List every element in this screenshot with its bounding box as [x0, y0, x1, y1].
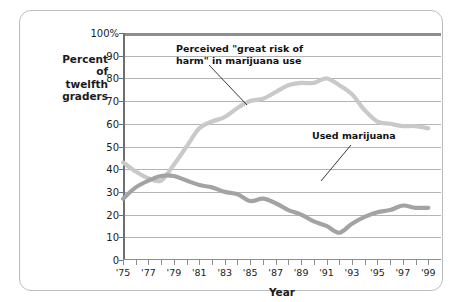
- x-tick-mark-1990: [314, 260, 315, 265]
- y-axis-title: Percent of twelfth graders: [34, 53, 108, 103]
- plot-area: 100%9080706050403020100 '75'77'79'81'83'…: [123, 33, 441, 260]
- y-axis-title-line-3: twelfth: [34, 78, 108, 90]
- y-tick-label-10: 10: [106, 232, 119, 243]
- x-tick-mark-1999: [428, 260, 429, 265]
- y-tick-label-40: 40: [106, 164, 119, 175]
- x-tick-label-1983: '83: [217, 267, 232, 278]
- x-tick-mark-1995: [377, 260, 378, 265]
- annotation-leaders: [123, 33, 441, 260]
- x-tick-label-1991: '91: [319, 267, 334, 278]
- x-tick-mark-1998: [416, 260, 417, 265]
- y-axis-title-line-4: graders: [34, 90, 108, 102]
- x-tick-mark-1991: [327, 260, 328, 265]
- x-tick-mark-1977: [148, 260, 149, 265]
- x-tick-label-1993: '93: [345, 267, 360, 278]
- x-tick-mark-1988: [288, 260, 289, 265]
- x-tick-mark-1978: [161, 260, 162, 265]
- x-tick-mark-1975: [123, 260, 124, 265]
- x-tick-mark-1986: [263, 260, 264, 265]
- x-tick-mark-1985: [250, 260, 251, 265]
- x-tick-label-1979: '79: [167, 267, 182, 278]
- x-tick-mark-1992: [339, 260, 340, 265]
- x-tick-label-1981: '81: [192, 267, 207, 278]
- x-tick-mark-1996: [390, 260, 391, 265]
- x-tick-label-1975: '75: [116, 267, 131, 278]
- x-tick-label-1985: '85: [243, 267, 258, 278]
- x-tick-mark-1993: [352, 260, 353, 265]
- y-tick-label-50: 50: [106, 141, 119, 152]
- chart-figure: Percent of twelfth graders 100%908070605…: [19, 10, 443, 291]
- x-tick-mark-1979: [174, 260, 175, 265]
- y-tick-label-20: 20: [106, 209, 119, 220]
- y-axis-title-line-1: Percent: [34, 53, 108, 65]
- leader-line-risk: [209, 65, 247, 105]
- x-tick-mark-1987: [276, 260, 277, 265]
- x-tick-label-1977: '77: [141, 267, 156, 278]
- leader-line-use: [321, 145, 351, 181]
- y-tick-label-100: 100%: [90, 28, 119, 39]
- x-axis-title: Year: [123, 286, 441, 298]
- x-tick-mark-1989: [301, 260, 302, 265]
- x-tick-mark-1982: [212, 260, 213, 265]
- x-tick-label-1987: '87: [268, 267, 283, 278]
- y-tick-label-70: 70: [106, 96, 119, 107]
- x-tick-mark-1997: [403, 260, 404, 265]
- x-tick-mark-1980: [187, 260, 188, 265]
- x-tick-label-1999: '99: [421, 267, 436, 278]
- y-axis-title-line-2: of: [34, 65, 108, 77]
- x-tick-mark-1981: [199, 260, 200, 265]
- x-tick-mark-1984: [237, 260, 238, 265]
- x-tick-mark-1994: [365, 260, 366, 265]
- x-tick-label-1997: '97: [395, 267, 410, 278]
- y-tick-label-90: 90: [106, 50, 119, 61]
- annotation-used-marijuana: Used marijuana: [312, 130, 396, 142]
- annotation-perceived-risk: Perceived "great risk of harm" in mariju…: [176, 43, 303, 66]
- x-tick-mark-1983: [225, 260, 226, 265]
- x-tick-label-1995: '95: [370, 267, 385, 278]
- y-tick-label-60: 60: [106, 118, 119, 129]
- x-tick-mark-1976: [136, 260, 137, 265]
- y-tick-label-80: 80: [106, 73, 119, 84]
- y-tick-label-30: 30: [106, 186, 119, 197]
- x-tick-label-1989: '89: [294, 267, 309, 278]
